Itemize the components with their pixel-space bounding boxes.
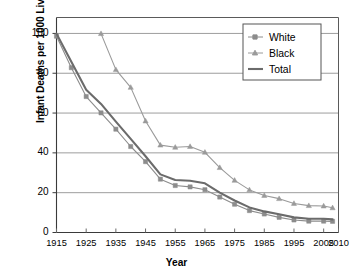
data-point-white-1940 [129, 144, 133, 148]
legend-marker-square-icon [253, 35, 257, 39]
y-tick-label-80: 80 [15, 67, 49, 78]
legend-label-total: Total [269, 64, 291, 75]
data-point-white-1970 [218, 195, 222, 199]
data-point-white-1930 [99, 111, 103, 115]
legend-label-white: White [269, 32, 296, 43]
data-point-white-1990 [277, 215, 281, 219]
data-point-white-1925 [84, 94, 88, 98]
data-point-white-1955 [173, 183, 177, 187]
data-point-white-1980 [247, 209, 251, 213]
y-tick-label-60: 60 [15, 107, 49, 118]
data-point-white-1960 [188, 185, 192, 189]
data-point-white-1975 [233, 202, 237, 206]
chart-plot-area: WhiteBlackTotal [0, 0, 353, 276]
y-tick-label-100: 100 [15, 27, 49, 38]
x-axis-title: Year [0, 257, 353, 268]
y-tick-label-0: 0 [15, 226, 49, 237]
infant-mortality-chart: WhiteBlackTotal Infant Deaths per 1000 L… [0, 0, 353, 276]
data-point-white-1950 [158, 177, 162, 181]
y-tick-label-40: 40 [15, 146, 49, 157]
y-tick-label-20: 20 [15, 186, 49, 197]
data-point-white-1945 [143, 160, 147, 164]
data-point-white-1935 [114, 127, 118, 131]
x-tick-label-2010: 2010 [319, 238, 353, 248]
data-point-white-1965 [203, 188, 207, 192]
legend-label-black: Black [269, 48, 295, 59]
